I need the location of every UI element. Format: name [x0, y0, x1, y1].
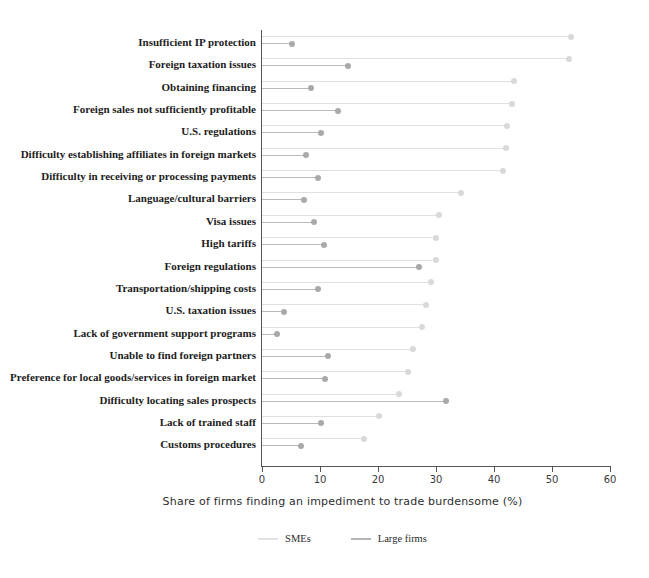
- lollipop-smes: [262, 304, 426, 305]
- lollipop-smes: [262, 394, 399, 395]
- data-point-dot[interactable]: [361, 436, 367, 442]
- chart-row: Insufficient IP protection: [0, 36, 649, 58]
- lollipop-large-firms: [262, 423, 321, 424]
- data-point-dot[interactable]: [416, 264, 422, 270]
- lollipop-stem: [262, 58, 569, 59]
- data-point-dot[interactable]: [345, 63, 351, 69]
- legend-item-smes[interactable]: SMEs: [258, 533, 311, 544]
- x-tick-label: 0: [259, 474, 265, 485]
- data-point-dot[interactable]: [500, 168, 506, 174]
- x-axis-title-text: Share of firms finding an impediment to …: [163, 495, 523, 508]
- data-point-dot[interactable]: [509, 101, 515, 107]
- x-tick-mark: [320, 466, 321, 472]
- lollipop-stem: [262, 110, 338, 111]
- lollipop-stem: [262, 394, 399, 395]
- data-point-dot[interactable]: [281, 309, 287, 315]
- data-point-dot[interactable]: [315, 286, 321, 292]
- lollipop-stem: [262, 36, 571, 37]
- lollipop-large-firms: [262, 43, 292, 44]
- data-point-dot[interactable]: [315, 175, 321, 181]
- data-point-dot[interactable]: [436, 212, 442, 218]
- category-label: Visa issues: [206, 215, 256, 227]
- category-label: Difficulty locating sales prospects: [99, 394, 256, 406]
- lollipop-stem: [262, 155, 306, 156]
- lollipop-stem: [262, 237, 436, 238]
- chart-row: Difficulty establishing affiliates in fo…: [0, 148, 649, 170]
- data-point-dot[interactable]: [274, 331, 280, 337]
- lollipop-stem: [262, 222, 314, 223]
- x-tick-label: 60: [604, 474, 617, 485]
- x-tick-mark: [552, 466, 553, 472]
- data-point-dot[interactable]: [405, 369, 411, 375]
- data-point-dot[interactable]: [458, 190, 464, 196]
- category-label: Obtaining financing: [162, 81, 256, 93]
- lollipop-smes: [262, 81, 514, 82]
- data-point-dot[interactable]: [503, 145, 509, 151]
- lollipop-stem: [262, 132, 321, 133]
- legend-label-large-firms: Large firms: [378, 533, 427, 544]
- legend-item-large-firms[interactable]: Large firms: [351, 533, 427, 544]
- chart-row: Foreign taxation issues: [0, 58, 649, 80]
- x-tick-label: 30: [430, 474, 443, 485]
- category-label: U.S. regulations: [181, 125, 256, 137]
- x-tick-label: 50: [546, 474, 559, 485]
- lollipop-large-firms: [262, 199, 304, 200]
- lollipop-smes: [262, 36, 571, 37]
- data-point-dot[interactable]: [504, 123, 510, 129]
- data-point-dot[interactable]: [428, 279, 434, 285]
- chart-row: Visa issues: [0, 215, 649, 237]
- lollipop-large-firms: [262, 445, 301, 446]
- data-point-dot[interactable]: [396, 391, 402, 397]
- lollipop-large-firms: [262, 356, 328, 357]
- data-point-dot[interactable]: [318, 420, 324, 426]
- lollipop-stem: [262, 244, 324, 245]
- data-point-dot[interactable]: [566, 56, 572, 62]
- data-point-dot[interactable]: [318, 130, 324, 136]
- lollipop-stem: [262, 267, 419, 268]
- lollipop-stem: [262, 401, 446, 402]
- lollipop-smes: [262, 103, 512, 104]
- data-point-dot[interactable]: [298, 443, 304, 449]
- lollipop-chart: Insufficient IP protectionForeign taxati…: [0, 0, 649, 578]
- category-label: Unable to find foreign partners: [110, 349, 256, 361]
- x-tick-label: 40: [488, 474, 501, 485]
- lollipop-stem: [262, 125, 507, 126]
- lollipop-large-firms: [262, 267, 419, 268]
- data-point-dot[interactable]: [376, 413, 382, 419]
- category-label: Difficulty establishing affiliates in fo…: [21, 148, 256, 160]
- data-point-dot[interactable]: [423, 302, 429, 308]
- data-point-dot[interactable]: [311, 219, 317, 225]
- lollipop-large-firms: [262, 334, 277, 335]
- data-point-dot[interactable]: [443, 398, 449, 404]
- data-point-dot[interactable]: [568, 34, 574, 40]
- lollipop-stem: [262, 438, 364, 439]
- lollipop-smes: [262, 327, 422, 328]
- lollipop-stem: [262, 103, 512, 104]
- lollipop-stem: [262, 289, 318, 290]
- lollipop-stem: [262, 148, 506, 149]
- chart-row: U.S. regulations: [0, 125, 649, 147]
- data-point-dot[interactable]: [433, 257, 439, 263]
- lollipop-smes: [262, 260, 436, 261]
- x-tick-mark: [436, 466, 437, 472]
- data-point-dot[interactable]: [303, 152, 309, 158]
- chart-legend: SMEs Large firms: [36, 533, 649, 544]
- data-point-dot[interactable]: [433, 235, 439, 241]
- data-point-dot[interactable]: [410, 346, 416, 352]
- data-point-dot[interactable]: [335, 108, 341, 114]
- lollipop-large-firms: [262, 65, 348, 66]
- lollipop-large-firms: [262, 88, 311, 89]
- data-point-dot[interactable]: [289, 41, 295, 47]
- lollipop-smes: [262, 170, 503, 171]
- lollipop-stem: [262, 215, 439, 216]
- lollipop-stem: [262, 260, 436, 261]
- data-point-dot[interactable]: [511, 78, 517, 84]
- category-label: Lack of trained staff: [160, 416, 256, 428]
- data-point-dot[interactable]: [322, 376, 328, 382]
- data-point-dot[interactable]: [301, 197, 307, 203]
- data-point-dot[interactable]: [419, 324, 425, 330]
- data-point-dot[interactable]: [325, 353, 331, 359]
- data-point-dot[interactable]: [321, 242, 327, 248]
- x-tick-mark: [262, 466, 263, 472]
- data-point-dot[interactable]: [308, 85, 314, 91]
